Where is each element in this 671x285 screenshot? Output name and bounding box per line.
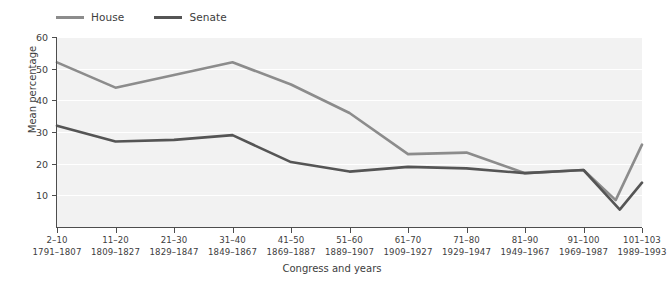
x-axis-label: Congress and years — [0, 263, 664, 274]
legend-label-house: House — [91, 12, 124, 23]
x-tick-congress: 61–70 — [395, 235, 422, 245]
x-axis-tick — [116, 228, 117, 233]
x-tick-congress: 41–50 — [278, 235, 305, 245]
series-line-senate — [57, 126, 642, 210]
x-axis-tick — [174, 228, 175, 233]
x-tick-years: 1989–1993 — [607, 247, 671, 259]
legend-swatch-senate — [154, 16, 182, 19]
y-axis-label: Mean percentage — [27, 20, 38, 160]
x-tick-congress: 71–80 — [453, 235, 480, 245]
y-axis-tick — [52, 164, 56, 165]
x-axis-tick-label: 101–1031989–1993 — [607, 235, 671, 258]
y-axis-tick-label: 40 — [0, 95, 48, 106]
y-axis-tick — [52, 132, 56, 133]
x-axis-tick — [291, 228, 292, 233]
x-axis-tick — [408, 228, 409, 233]
x-tick-congress: 51–60 — [336, 235, 363, 245]
legend-item-house[interactable]: House — [56, 12, 124, 23]
plot-area — [57, 37, 642, 227]
legend-item-senate[interactable]: Senate — [154, 12, 226, 23]
y-axis-tick-label: 50 — [0, 63, 48, 74]
y-axis-tick — [52, 195, 56, 196]
x-tick-congress: 11–20 — [102, 235, 129, 245]
y-axis-tick — [52, 69, 56, 70]
y-axis-tick — [52, 100, 56, 101]
legend-label-senate: Senate — [189, 12, 226, 23]
y-axis-tick-label: 10 — [0, 190, 48, 201]
x-axis-tick — [642, 228, 643, 233]
y-axis-tick-label: 20 — [0, 158, 48, 169]
x-axis-tick — [233, 228, 234, 233]
series-line-house — [57, 62, 642, 200]
chart-legend: House Senate — [56, 9, 227, 25]
x-axis-tick — [467, 228, 468, 233]
x-tick-congress: 31–40 — [219, 235, 246, 245]
y-axis-tick-label: 60 — [0, 32, 48, 43]
series-lines — [57, 37, 642, 227]
x-tick-congress: 2–10 — [46, 235, 67, 245]
x-axis-tick — [350, 228, 351, 233]
y-axis-tick-label: 30 — [0, 127, 48, 138]
x-axis-tick — [584, 228, 585, 233]
x-tick-congress: 101–103 — [623, 235, 661, 245]
legend-swatch-house — [56, 16, 84, 19]
y-axis-tick — [52, 37, 56, 38]
x-tick-congress: 91–100 — [567, 235, 599, 245]
x-tick-congress: 21–30 — [161, 235, 188, 245]
x-axis-tick — [525, 228, 526, 233]
x-tick-congress: 81–90 — [512, 235, 539, 245]
y-axis-line — [56, 37, 57, 228]
x-axis-tick — [57, 228, 58, 233]
